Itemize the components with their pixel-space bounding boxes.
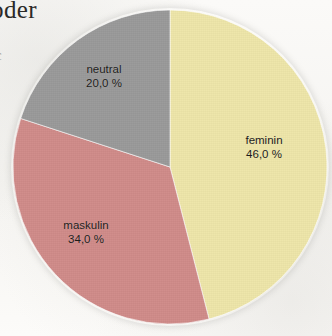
slice-label-maskulin-name: maskulin — [34, 218, 138, 232]
slice-label-neutral-value: 20,0 % — [58, 76, 150, 90]
slice-label-feminin-name: feminin — [218, 133, 310, 147]
pie-slices — [13, 10, 327, 324]
pie-chart — [0, 0, 332, 336]
slice-label-maskulin-value: 34,0 % — [34, 232, 138, 246]
slice-label-neutral-name: neutral — [58, 62, 150, 76]
slice-label-maskulin: maskulin 34,0 % — [34, 218, 138, 246]
slice-label-neutral: neutral 20,0 % — [58, 62, 150, 90]
pie-chart-figure: oder c feminin 46,0 % maskulin 34,0 % ne… — [0, 0, 332, 336]
slice-label-feminin: feminin 46,0 % — [218, 133, 310, 161]
slice-label-feminin-value: 46,0 % — [218, 147, 310, 161]
